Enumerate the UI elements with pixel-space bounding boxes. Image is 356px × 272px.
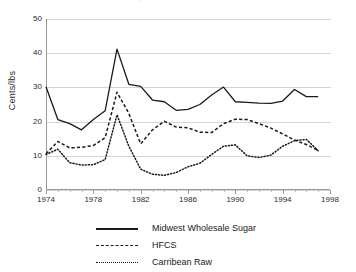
x-tick-mark-1994: [283, 190, 284, 194]
x-tick-mark-1975: [58, 190, 59, 192]
x-tick-mark-1980: [117, 190, 118, 192]
series-line-midwest-wholesale-sugar: [46, 49, 318, 130]
series-lines: [46, 19, 330, 190]
x-tick-mark-1995: [295, 190, 296, 192]
x-tick-mark-1974: [46, 190, 47, 194]
legend-label-hfcs: HFCS: [152, 237, 177, 254]
chart-title: Sugar and Sweetener Prices: [0, 0, 356, 1]
legend-swatch-dotted-icon: [96, 262, 138, 263]
x-tick-label-1994: 1994: [263, 196, 303, 204]
x-tick-mark-1987: [200, 190, 201, 192]
y-tick-label-10: 10: [8, 152, 42, 160]
x-tick-mark-1985: [176, 190, 177, 192]
x-tick-label-1978: 1978: [73, 196, 113, 204]
y-axis-label: Cents/lbs: [8, 51, 17, 131]
chart-container: Sugar and Sweetener Prices 01020304050 C…: [0, 0, 356, 272]
x-tick-label-1990: 1990: [215, 196, 255, 204]
x-tick-mark-1990: [235, 190, 236, 194]
x-tick-mark-1988: [212, 190, 213, 192]
x-tick-label-1974: 1974: [26, 196, 66, 204]
legend-label-midwest-wholesale-sugar: Midwest Wholesale Sugar: [152, 220, 256, 237]
series-line-carribean-raw: [46, 115, 318, 176]
x-tick-mark-1998: [330, 190, 331, 194]
chart-legend: Midwest Wholesale Sugar HFCS Carribean R…: [96, 220, 336, 271]
x-tick-mark-1981: [129, 190, 130, 192]
x-tick-mark-1993: [271, 190, 272, 192]
legend-item-carribean-raw: Carribean Raw: [96, 254, 336, 271]
gridline-0: [47, 190, 331, 191]
x-tick-mark-1976: [70, 190, 71, 192]
x-tick-mark-1991: [247, 190, 248, 192]
x-tick-mark-1997: [318, 190, 319, 192]
x-tick-mark-1983: [153, 190, 154, 192]
y-axis-ticks: 01020304050: [0, 0, 42, 272]
series-line-hfcs: [46, 92, 318, 154]
legend-label-carribean-raw: Carribean Raw: [152, 254, 212, 271]
x-tick-label-1986: 1986: [168, 196, 208, 204]
y-tick-label-0: 0: [8, 186, 42, 194]
legend-swatch-dashed-icon: [96, 245, 138, 246]
x-tick-mark-1996: [306, 190, 307, 192]
x-tick-mark-1978: [93, 190, 94, 194]
legend-swatch-solid-icon: [96, 228, 138, 230]
x-tick-mark-1984: [164, 190, 165, 192]
x-tick-mark-1979: [105, 190, 106, 192]
y-tick-label-50: 50: [8, 15, 42, 23]
x-tick-mark-1989: [224, 190, 225, 192]
x-tick-mark-1986: [188, 190, 189, 194]
legend-item-midwest-wholesale-sugar: Midwest Wholesale Sugar: [96, 220, 336, 237]
x-tick-label-1998: 1998: [310, 196, 350, 204]
legend-item-hfcs: HFCS: [96, 237, 336, 254]
x-tick-mark-1992: [259, 190, 260, 192]
x-tick-mark-1982: [141, 190, 142, 194]
x-tick-label-1982: 1982: [121, 196, 161, 204]
x-tick-mark-1977: [82, 190, 83, 192]
